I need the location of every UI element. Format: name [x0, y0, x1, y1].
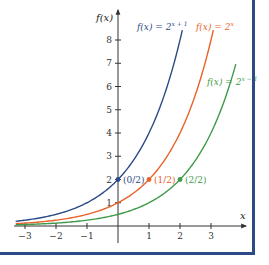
point-label: (2/2) — [185, 175, 207, 185]
curve-2-pow-x-plus-1 — [16, 30, 183, 221]
point-marker — [116, 177, 121, 182]
y-ticks: 12345678 — [106, 35, 121, 208]
y-tick-label: 7 — [106, 58, 112, 68]
highlighted-points: (0/2)(1/2)(2/2) — [116, 175, 207, 185]
y-tick-label: 3 — [106, 151, 112, 161]
point-label: (1/2) — [154, 175, 176, 185]
exponential-functions-chart: x f(x) −3−2−1123 12345678 (0/2)(1/2)(2/2… — [0, 0, 269, 265]
curve-2-pow-x — [16, 30, 214, 224]
x-tick-label: 3 — [208, 231, 214, 241]
x-tick-label: −3 — [18, 231, 32, 241]
point-marker — [147, 177, 152, 182]
y-tick-label: 8 — [106, 35, 112, 45]
y-tick-label: 5 — [106, 105, 112, 115]
curve-label-orange: f(x) = 2x — [195, 20, 234, 32]
curve-2-pow-x-minus-1 — [16, 64, 236, 225]
x-tick-label: −2 — [49, 231, 62, 241]
y-tick-label: 4 — [106, 128, 112, 138]
curve-labels: f(x) = 2x + 1 f(x) = 2x f(x) = 2x − 1 — [136, 20, 257, 87]
point-label: (0/2) — [123, 175, 145, 185]
x-tick-label: 1 — [146, 231, 152, 241]
curves — [16, 30, 236, 225]
x-axis-label: x — [240, 210, 246, 221]
curve-label-blue: f(x) = 2x + 1 — [136, 20, 187, 32]
axes: x f(x) −3−2−1123 12345678 — [14, 10, 246, 243]
x-tick-label: −1 — [80, 231, 93, 241]
y-tick-label: 6 — [106, 82, 112, 92]
y-tick-label: 2 — [106, 175, 112, 185]
point-marker — [178, 177, 183, 182]
x-tick-label: 2 — [177, 231, 183, 241]
y-axis-label: f(x) — [95, 12, 113, 23]
curve-label-green: f(x) = 2x − 1 — [206, 75, 257, 87]
